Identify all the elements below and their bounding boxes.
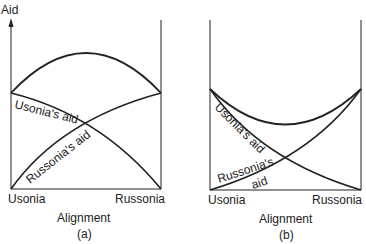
panel-a-y-axis-label: Aid (1, 4, 18, 16)
panel-b-usonia-curve-label: Usonia's aid (212, 100, 268, 156)
panel-a-x-left-label: Usonia (8, 193, 45, 205)
panel-a-caption: (a) (77, 228, 92, 240)
panel-b-caption: (b) (279, 229, 294, 241)
panel-a-russonia-curve-label: Russonia's aid (23, 128, 93, 187)
panel-a-usonia-curve-label: Usonia's aid (13, 97, 79, 126)
panel-b-x-left-label: Usonia (208, 194, 245, 206)
panel-a-x-right-label: Russonia (115, 193, 165, 205)
y-axis-arrow-icon (9, 18, 14, 27)
panel-b-russonia-curve-label-aid: aid (250, 174, 270, 192)
chart-canvas: Usonia's aid Russonia's aid Usonia's aid… (0, 0, 366, 244)
panel-b-x-axis-title: Alignment (259, 213, 312, 225)
panel-a-total-aid-curve (11, 53, 161, 93)
panel-a-x-axis-title: Alignment (57, 212, 110, 224)
panel-b-x-right-label: Russonia (312, 194, 362, 206)
panel-b-plot (210, 20, 361, 190)
